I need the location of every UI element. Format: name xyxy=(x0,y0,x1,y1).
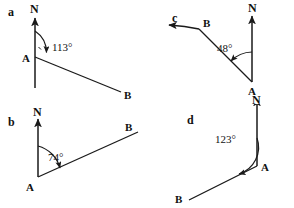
panel-a: a N A B 113° xyxy=(0,0,147,104)
angle-arc-d xyxy=(239,138,259,174)
ray-ab-a xyxy=(35,57,121,92)
target-label-b: B xyxy=(125,122,132,133)
angle-label-c: 48° xyxy=(217,43,232,54)
extension-arrow-c xyxy=(169,25,199,29)
panel-label-d: d xyxy=(187,114,194,126)
ray-ab-d xyxy=(189,166,257,200)
north-label-d: N xyxy=(252,94,261,106)
angle-label-a: 113° xyxy=(52,42,73,53)
angle-label-b: 74° xyxy=(48,152,63,163)
panel-d: d N A B 123° xyxy=(147,104,294,208)
target-label-c: B xyxy=(203,18,210,29)
panel-label-b: b xyxy=(8,116,15,128)
vertex-label-b: A xyxy=(26,182,34,193)
angle-label-d: 123° xyxy=(215,134,236,145)
panel-c: c N B A 48° xyxy=(147,0,294,104)
vertex-label-d: A xyxy=(261,162,269,173)
vertex-label-a: A xyxy=(22,53,30,64)
north-label-c: N xyxy=(248,2,257,14)
angle-arc-c xyxy=(231,52,252,61)
panel-d-drawing xyxy=(147,104,294,208)
panel-label-a: a xyxy=(8,6,14,18)
ray-ab-c xyxy=(199,29,252,82)
figure-canvas: a N A B 113° b N A B 74° xyxy=(0,0,294,208)
target-label-d: B xyxy=(175,194,182,205)
north-label-a: N xyxy=(30,3,39,15)
target-label-a: B xyxy=(124,90,131,101)
panel-b: b N A B 74° xyxy=(0,104,147,208)
angle-tick-a xyxy=(39,47,42,50)
north-label-b: N xyxy=(33,106,42,118)
panel-b-drawing xyxy=(0,104,147,208)
panel-label-c: c xyxy=(172,12,177,24)
